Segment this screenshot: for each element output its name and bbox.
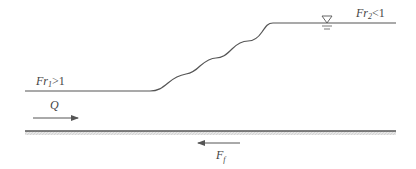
water-surface-profile (25, 23, 396, 91)
hydraulic-jump-diagram: Fr1>1 Fr2<1 Q Ff (0, 0, 416, 169)
discharge-label: Q (50, 98, 59, 112)
downstream-froude-label: Fr2<1 (355, 6, 385, 21)
friction-force-label: Ff (215, 148, 227, 164)
upstream-froude-label: Fr1>1 (35, 74, 65, 89)
channel-bed (25, 131, 396, 135)
